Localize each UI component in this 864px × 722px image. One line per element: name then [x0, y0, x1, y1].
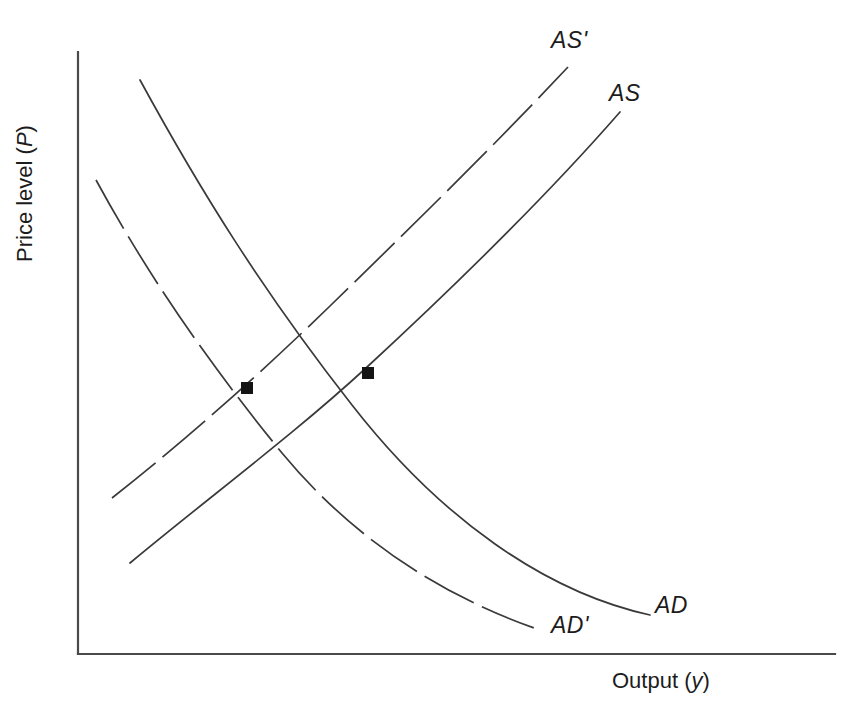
curve-as-prime [112, 67, 568, 498]
axis-lines [78, 52, 835, 654]
y-axis-label-close: ) [12, 125, 37, 132]
y-axis-label-text: Price level ( [12, 147, 37, 262]
curve-as [130, 112, 620, 563]
curve-label-ad: AD [655, 592, 688, 619]
x-axis-label-close: ) [702, 668, 709, 693]
equilibrium-point-initial [362, 367, 374, 379]
x-axis-label: Output (y) [612, 668, 710, 694]
curve-label-as-prime: AS' [551, 27, 588, 54]
equilibrium-point-new [241, 382, 253, 394]
ad-as-diagram: AS' AS AD AD' Output (y) Price level (P) [0, 0, 864, 722]
curve-ad [140, 80, 650, 615]
x-axis-label-text: Output ( [612, 668, 691, 693]
curve-ad-prime [96, 180, 540, 630]
y-axis-label: Price level (P) [12, 125, 38, 262]
curve-label-as: AS [609, 80, 641, 107]
plot-area [0, 0, 864, 722]
x-axis-label-variable: y [691, 668, 702, 693]
y-axis-label-variable: P [12, 132, 37, 147]
curve-label-ad-prime: AD' [551, 612, 589, 639]
